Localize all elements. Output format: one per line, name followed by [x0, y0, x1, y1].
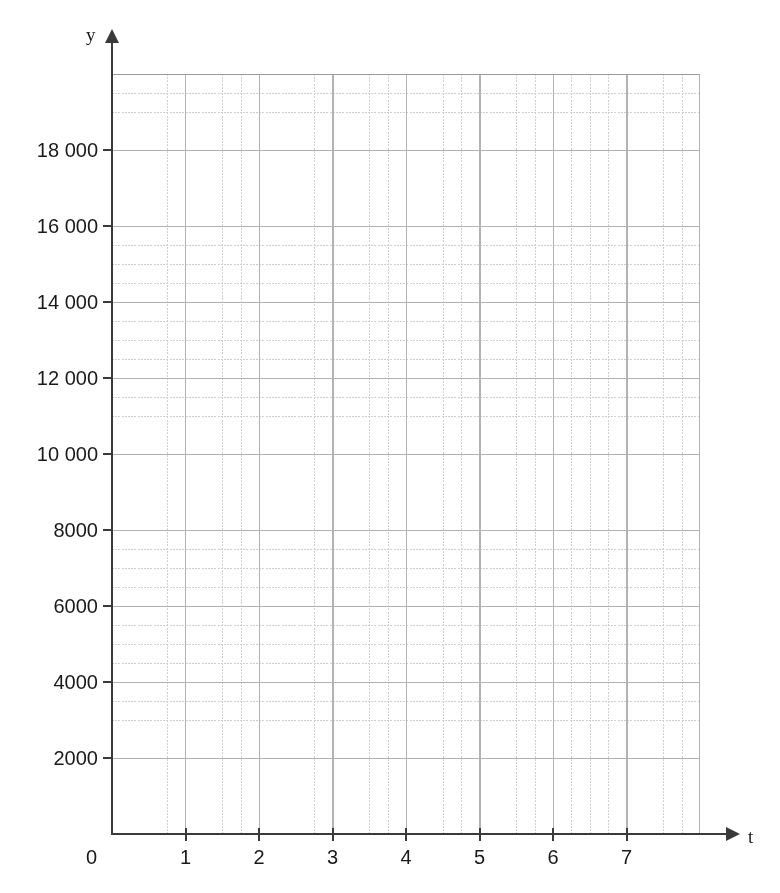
y-tick-label: 4000 — [0, 671, 98, 694]
x-tick-mark — [258, 828, 260, 841]
x-axis-arrow-icon — [726, 827, 740, 841]
y-tick-mark — [103, 681, 113, 683]
y-tick-label: 14 000 — [0, 291, 98, 314]
x-tick-label: 2 — [239, 846, 279, 869]
x-tick-label: 3 — [313, 846, 353, 869]
graph-paper-canvas: y t 0 200040006000800010 00012 00014 000… — [0, 0, 780, 893]
grid-right-edge — [699, 74, 700, 834]
major-gridlines — [112, 74, 700, 834]
x-tick-mark — [405, 828, 407, 841]
y-tick-label: 18 000 — [0, 139, 98, 162]
y-tick-mark — [103, 605, 113, 607]
x-tick-label: 1 — [166, 846, 206, 869]
y-axis-label: y — [86, 24, 96, 46]
y-tick-label: 8000 — [0, 519, 98, 542]
y-tick-mark — [103, 301, 113, 303]
y-axis-arrow-icon — [105, 29, 119, 43]
x-axis-line — [111, 833, 730, 835]
x-tick-mark — [626, 828, 628, 841]
x-axis-label: t — [748, 826, 753, 848]
y-tick-label: 16 000 — [0, 215, 98, 238]
y-tick-mark — [103, 757, 113, 759]
y-tick-label: 6000 — [0, 595, 98, 618]
x-tick-mark — [332, 828, 334, 841]
x-tick-label: 4 — [386, 846, 426, 869]
grid-top-edge — [112, 74, 700, 75]
y-tick-label: 12 000 — [0, 367, 98, 390]
x-tick-mark — [552, 828, 554, 841]
y-tick-label: 2000 — [0, 747, 98, 770]
y-tick-mark — [103, 377, 113, 379]
y-tick-mark — [103, 453, 113, 455]
y-axis-line — [111, 40, 113, 835]
x-tick-label: 5 — [460, 846, 500, 869]
plot-grid-area — [112, 74, 700, 834]
x-tick-label: 6 — [533, 846, 573, 869]
x-tick-label: 7 — [607, 846, 647, 869]
x-tick-mark — [185, 828, 187, 841]
x-tick-mark — [479, 828, 481, 841]
minor-gridline-dot-mask — [112, 74, 700, 834]
origin-label: 0 — [86, 846, 97, 869]
y-tick-mark — [103, 225, 113, 227]
y-tick-mark — [103, 149, 113, 151]
y-tick-mark — [103, 529, 113, 531]
y-tick-label: 10 000 — [0, 443, 98, 466]
